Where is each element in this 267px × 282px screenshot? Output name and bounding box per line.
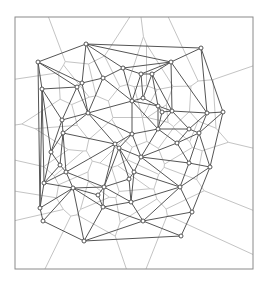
site-point: [58, 163, 62, 167]
voronoi-edge: [143, 37, 146, 45]
delaunay-edge: [77, 87, 88, 113]
voronoi-edge: [59, 73, 61, 100]
site-point: [141, 96, 145, 100]
voronoi-edge: [112, 168, 120, 192]
voronoi-edge: [88, 161, 92, 172]
delaunay-edge: [51, 120, 62, 152]
site-point: [178, 185, 182, 189]
voronoi-edge: [191, 81, 198, 86]
site-point: [96, 193, 100, 197]
voronoi-edge: [96, 96, 108, 101]
site-point: [199, 46, 203, 50]
voronoi-edge: [158, 148, 164, 164]
delaunay-edge: [210, 112, 223, 167]
site-point: [160, 110, 164, 114]
delaunay-edge: [141, 143, 177, 157]
delaunay-edge: [38, 62, 40, 208]
voronoi-edge: [108, 101, 112, 117]
voronoi-edge: [112, 118, 113, 120]
delaunay-edge: [103, 207, 143, 221]
voronoi-edge: [213, 66, 253, 80]
voronoi-edge: [108, 87, 119, 101]
site-point: [75, 85, 79, 89]
delaunay-edge: [192, 167, 210, 212]
voronoi-edge: [198, 121, 216, 128]
delaunay-edge: [131, 202, 143, 221]
voronoi-edge: [134, 86, 147, 87]
voronoi-edge: [204, 191, 253, 211]
voronoi-edge: [147, 86, 158, 90]
voronoi-edge: [92, 161, 100, 163]
voronoi-edge: [142, 118, 147, 142]
site-point: [129, 200, 133, 204]
delaunay-edge: [73, 188, 84, 241]
voronoi-edge: [119, 189, 150, 192]
site-point: [117, 146, 121, 150]
voronoi-edge: [154, 174, 159, 189]
delaunay-edge: [177, 143, 189, 163]
voronoi-edge: [59, 65, 64, 73]
delaunay-edge: [143, 212, 192, 221]
delaunay-edge: [42, 89, 62, 120]
delaunay-edge: [88, 78, 103, 113]
voronoi-edge: [166, 209, 167, 215]
site-point: [38, 206, 42, 210]
delaunay-edge: [180, 187, 192, 212]
site-point: [102, 185, 106, 189]
voronoi-edge: [147, 44, 174, 86]
delaunay-edge: [104, 148, 119, 187]
delaunay-voronoi-diagram: [0, 0, 267, 282]
delaunay-edge: [66, 144, 115, 172]
site-point: [170, 109, 174, 113]
voronoi-edge: [116, 198, 120, 223]
delaunay-edge: [134, 157, 141, 172]
site-point: [175, 141, 179, 145]
delaunay-edge: [103, 187, 104, 207]
delaunay-edge: [40, 188, 73, 208]
voronoi-edge: [71, 215, 77, 216]
site-point: [86, 111, 90, 115]
delaunay-edge: [177, 129, 189, 143]
voronoi-edge: [65, 62, 88, 64]
delaunay-edge: [171, 62, 207, 113]
site-point: [84, 42, 88, 46]
voronoi-edge: [174, 111, 190, 126]
voronoi-edge: [72, 97, 89, 104]
voronoi-edge: [166, 105, 168, 123]
site-point: [156, 127, 160, 131]
delaunay-edge: [104, 187, 131, 202]
delaunay-edge: [158, 129, 177, 143]
voronoi-edge: [44, 167, 55, 176]
site-point: [187, 127, 191, 131]
voronoi-edge: [120, 85, 128, 87]
delaunay-edge: [123, 68, 132, 101]
voronoi-edge: [190, 142, 193, 148]
site-point: [64, 170, 68, 174]
site-point: [156, 104, 160, 108]
delaunay-edge: [171, 62, 172, 111]
bounding-frame: [15, 17, 253, 269]
delaunay-edge: [43, 221, 84, 241]
delaunay-edge: [73, 188, 98, 195]
site-point: [139, 72, 143, 76]
voronoi-edge: [124, 139, 132, 147]
voronoi-edge: [164, 167, 197, 179]
site-point: [49, 150, 53, 154]
delaunay-edge: [143, 221, 181, 236]
delaunay-edge: [123, 68, 141, 74]
voronoi-edge: [86, 140, 88, 151]
delaunay-edge: [88, 101, 132, 113]
voronoi-edge: [22, 99, 60, 124]
site-point: [179, 234, 183, 238]
delaunay-edge: [43, 188, 73, 221]
site-point: [130, 99, 134, 103]
site-point: [42, 181, 46, 185]
site-point: [190, 210, 194, 214]
site-point: [208, 165, 212, 169]
site-point: [113, 142, 117, 146]
voronoi-edge: [228, 142, 253, 148]
site-point: [71, 186, 75, 190]
delaunay-edge: [88, 113, 132, 134]
voronoi-edge: [118, 160, 127, 166]
voronoi-edge: [115, 236, 126, 269]
